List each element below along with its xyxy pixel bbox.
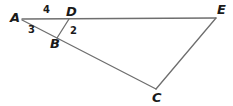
segment-EC [156, 18, 216, 89]
segment-AC [22, 20, 156, 89]
angle-label-2: 2 [70, 26, 77, 36]
segment-group [22, 18, 216, 89]
geometry-figure: A D E B C 4 3 2 [0, 0, 233, 106]
angle-label-3: 3 [28, 25, 35, 35]
vertex-label-D: D [66, 5, 77, 18]
geometry-canvas [0, 0, 233, 106]
vertex-label-B: B [50, 37, 60, 50]
segment-AE [22, 18, 216, 19]
vertex-label-A: A [10, 11, 20, 24]
vertex-label-E: E [217, 3, 226, 16]
angle-label-4: 4 [43, 5, 50, 15]
vertex-label-C: C [152, 91, 162, 104]
